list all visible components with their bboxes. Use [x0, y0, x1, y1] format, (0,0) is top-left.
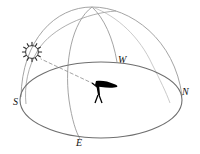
cardinal-label-east: E [75, 137, 82, 148]
meridian-arc-west [92, 7, 117, 62]
cardinal-label-south: S [13, 96, 18, 107]
observer-figure-icon [92, 81, 117, 103]
celestial-sphere-canvas: S W N E [0, 0, 200, 154]
sun-daily-path-arc [26, 11, 117, 104]
celestial-sphere-diagram: S W N E [0, 0, 200, 154]
sun-icon [22, 42, 41, 61]
cardinal-label-north: N [181, 86, 190, 97]
